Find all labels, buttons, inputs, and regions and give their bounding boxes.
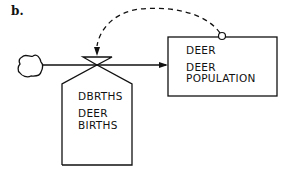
diagram-graphics	[0, 0, 296, 172]
info-link-dashed	[97, 8, 220, 46]
rate-name-line1: DEER	[78, 107, 108, 119]
stock-flow-diagram: b. DEER DEER POPULATION DBRTHS DEER BIRT…	[0, 0, 296, 172]
info-takeoff-circle	[219, 33, 226, 40]
level-box	[168, 37, 277, 96]
rate-code: DBRTHS	[78, 90, 123, 102]
info-arrowhead-icon	[94, 47, 100, 56]
flow-arrowhead-icon	[159, 62, 168, 68]
valve-icon	[83, 57, 112, 65]
cloud-source-icon	[18, 55, 42, 77]
level-name-line2: POPULATION	[186, 72, 256, 84]
rate-name-line2: BIRTHS	[78, 119, 118, 131]
level-code: DEER	[186, 44, 216, 56]
panel-label: b.	[11, 4, 24, 18]
